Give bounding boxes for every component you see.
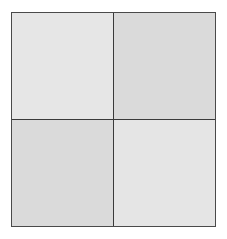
quadrant-bottom-right (114, 120, 215, 226)
quadrant-top-right (114, 13, 215, 120)
quadrant-top-left (12, 13, 114, 120)
quadrant-grid (11, 12, 216, 227)
quadrant-bottom-left (12, 120, 114, 226)
